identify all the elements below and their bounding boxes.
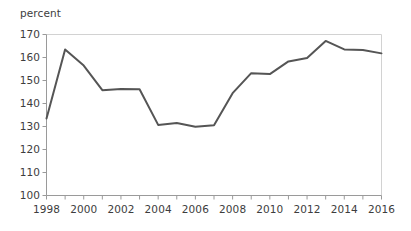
x-tick-label: 2014: [324, 203, 364, 215]
x-tick-label: 1998: [27, 203, 67, 215]
y-tick-label: 130: [14, 120, 40, 132]
y-axis-ticks: [43, 35, 47, 196]
y-tick-label: 160: [14, 51, 40, 63]
x-tick-label: 2002: [101, 203, 141, 215]
axis-lines: [47, 35, 382, 196]
x-tick-label: 2010: [250, 203, 290, 215]
x-tick-label: 2012: [287, 203, 327, 215]
x-tick-label: 2008: [213, 203, 253, 215]
x-tick-label: 2016: [362, 203, 402, 215]
x-tick-label: 2000: [64, 203, 104, 215]
line-chart: percent 170160150140130120110100 1998200…: [0, 0, 411, 231]
x-tick-label: 2004: [138, 203, 178, 215]
y-tick-label: 100: [14, 189, 40, 201]
plot-border: [47, 35, 382, 196]
x-tick-label: 2006: [175, 203, 215, 215]
data-series-line: [47, 41, 382, 127]
y-tick-label: 110: [14, 166, 40, 178]
y-tick-label: 120: [14, 143, 40, 155]
x-axis-ticks: [47, 196, 382, 200]
plot-area: [0, 0, 411, 231]
y-tick-label: 140: [14, 97, 40, 109]
y-tick-label: 170: [14, 28, 40, 40]
y-tick-label: 150: [14, 74, 40, 86]
